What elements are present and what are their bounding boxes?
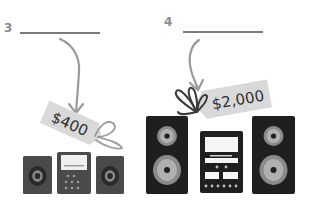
small-stereo-system [23,152,124,194]
speaker-right [252,116,295,194]
illustration-canvas: $400 [0,0,310,212]
speaker-left [23,156,52,194]
large-stereo-system [146,116,295,194]
arrow-icon [190,40,203,90]
stereo-center-unit [200,131,243,193]
stereo-center-unit [57,152,91,194]
price-tag: $2,000 [193,80,272,121]
arrow-icon [60,39,83,113]
speaker-left [146,116,188,194]
speaker-right [96,156,124,194]
